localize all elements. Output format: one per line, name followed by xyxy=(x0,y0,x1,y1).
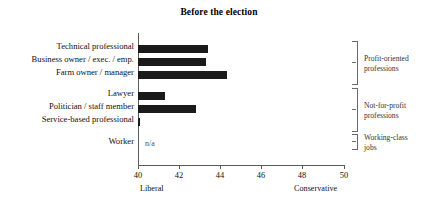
bar-fill xyxy=(138,71,227,79)
group-bracket-tick-profit-oriented xyxy=(352,62,356,63)
group-label-not-for-profit: Not-for-profit professions xyxy=(364,101,406,120)
group-label-line2: professions xyxy=(364,111,406,121)
x-axis-line xyxy=(138,165,345,166)
xtick-label-50: 50 xyxy=(332,171,356,180)
xtick-mark-42 xyxy=(179,165,180,169)
xtick-mark-40 xyxy=(138,165,139,169)
group-bracket-profit-oriented xyxy=(352,41,358,85)
group-label-profit-oriented: Profit-oriented professions xyxy=(364,54,409,73)
category-label-service-based: Service-based professional xyxy=(0,115,134,124)
bar-fill xyxy=(138,45,208,53)
xtick-mark-46 xyxy=(261,165,262,169)
group-label-line2: professions xyxy=(364,64,409,74)
group-bracket-working-class xyxy=(352,134,358,150)
bar-fill xyxy=(138,58,206,66)
category-label-technical-professional: Technical professional xyxy=(0,42,134,51)
xtick-label-48: 48 xyxy=(290,171,314,180)
xtick-label-44: 44 xyxy=(208,171,232,180)
group-label-line2: jobs xyxy=(364,143,408,153)
bar-chart: Before the election Technical profession… xyxy=(0,0,438,208)
category-label-farm-owner: Farm owner / manager xyxy=(0,68,134,77)
xtick-mark-44 xyxy=(220,165,221,169)
group-bracket-tick-not-for-profit xyxy=(352,109,356,110)
category-label-business-owner: Business owner / exec. / emp. xyxy=(0,55,134,64)
category-label-politician: Politician / staff member xyxy=(0,102,134,111)
group-label-line1: Profit-oriented xyxy=(364,54,409,64)
category-label-worker: Worker xyxy=(0,137,134,146)
category-label-lawyer: Lawyer xyxy=(0,89,134,98)
bar-fill xyxy=(138,92,165,100)
group-label-line1: Working-class xyxy=(364,133,408,143)
xtick-label-42: 42 xyxy=(167,171,191,180)
bar-fill xyxy=(138,105,196,113)
group-bracket-not-for-profit xyxy=(352,88,358,132)
xtick-mark-50 xyxy=(344,165,345,169)
xtick-label-46: 46 xyxy=(249,171,273,180)
axis-end-label-conservative: Conservative xyxy=(294,184,337,193)
group-label-line1: Not-for-profit xyxy=(364,101,406,111)
xtick-label-40: 40 xyxy=(126,171,150,180)
group-bracket-tick-working-class xyxy=(352,141,356,142)
bar-fill xyxy=(138,118,140,126)
chart-title: Before the election xyxy=(0,7,438,17)
axis-end-label-liberal: Liberal xyxy=(140,184,164,193)
xtick-mark-48 xyxy=(302,165,303,169)
group-label-working-class: Working-class jobs xyxy=(364,133,408,152)
worker-na-annotation: n/a xyxy=(145,139,155,148)
plot-area xyxy=(138,33,344,165)
